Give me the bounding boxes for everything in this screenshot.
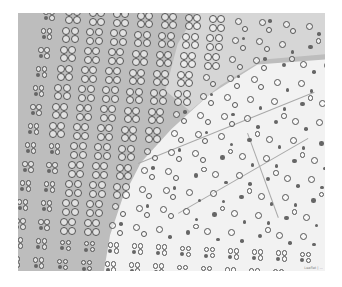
marker-icon[interactable] [84,56,92,64]
marker-icon[interactable] [87,94,95,102]
marker-icon[interactable] [174,90,182,98]
marker-icon[interactable] [92,56,100,64]
marker-icon[interactable] [169,21,177,29]
marker-icon[interactable] [86,28,94,36]
marker-icon[interactable] [212,53,220,61]
marker-icon[interactable] [44,47,50,53]
marker-icon[interactable] [144,212,150,218]
marker-icon[interactable] [153,127,161,135]
marker-dot-icon[interactable] [300,102,305,107]
marker-icon[interactable] [259,19,266,26]
marker-dot-icon[interactable] [151,166,155,170]
marker-icon[interactable] [90,241,96,247]
marker-dot-icon[interactable] [310,89,314,93]
marker-icon[interactable] [98,181,106,189]
marker-icon[interactable] [186,189,193,196]
marker-icon[interactable] [133,224,140,231]
marker-icon[interactable] [46,162,52,168]
marker-icon[interactable] [181,118,187,124]
marker-icon[interactable] [120,211,126,217]
marker-icon[interactable] [188,60,196,68]
marker-dot-icon[interactable] [183,110,187,114]
marker-icon[interactable] [95,37,103,45]
marker-icon[interactable] [289,56,295,62]
marker-icon[interactable] [119,29,127,37]
marker-icon[interactable] [148,116,156,124]
marker-icon[interactable] [124,115,132,123]
marker-dot-icon[interactable] [278,145,282,149]
marker-icon[interactable] [60,54,68,62]
marker-icon[interactable] [210,190,217,197]
marker-icon[interactable] [121,13,129,18]
marker-icon[interactable] [116,57,124,65]
marker-icon[interactable] [36,110,42,116]
marker-icon[interactable] [164,59,172,67]
marker-icon[interactable] [47,206,53,212]
marker-icon[interactable] [167,40,175,48]
marker-icon[interactable] [206,34,214,42]
marker-icon[interactable] [232,37,239,44]
marker-dot-icon[interactable] [130,269,134,271]
marker-dot-icon[interactable] [251,163,255,167]
marker-icon[interactable] [79,142,87,150]
marker-dot-icon[interactable] [283,107,287,111]
marker-icon[interactable] [200,93,207,100]
marker-dot-icon[interactable] [28,130,32,134]
marker-icon[interactable] [256,38,263,45]
marker-icon[interactable] [100,162,108,170]
marker-icon[interactable] [162,250,168,256]
marker-dot-icon[interactable] [132,250,136,254]
marker-icon[interactable] [102,95,110,103]
marker-icon[interactable] [135,268,141,271]
marker-icon[interactable] [68,170,76,178]
marker-dot-icon[interactable] [267,221,271,225]
marker-icon[interactable] [126,96,134,104]
marker-icon[interactable] [316,38,322,44]
marker-icon[interactable] [273,170,279,176]
marker-icon[interactable] [290,28,296,34]
marker-icon[interactable] [68,161,76,169]
marker-icon[interactable] [34,123,40,129]
marker-icon[interactable] [300,233,307,240]
marker-icon[interactable] [279,269,285,271]
marker-icon[interactable] [108,57,116,65]
marker-icon[interactable] [76,113,84,121]
marker-icon[interactable] [193,224,199,230]
marker-icon[interactable] [284,175,291,182]
marker-icon[interactable] [39,263,45,269]
marker-icon[interactable] [212,171,219,178]
marker-dot-icon[interactable] [222,200,226,204]
marker-icon[interactable] [89,18,97,26]
marker-dot-icon[interactable] [284,216,289,221]
marker-icon[interactable] [251,76,258,83]
marker-dot-icon[interactable] [263,57,267,61]
marker-dot-icon[interactable] [294,203,298,207]
marker-dot-icon[interactable] [20,187,24,191]
marker-dot-icon[interactable] [154,270,158,271]
marker-icon[interactable] [81,260,87,266]
marker-icon[interactable] [92,171,100,179]
marker-icon[interactable] [114,242,120,248]
marker-icon[interactable] [210,81,216,87]
marker-icon[interactable] [52,111,60,119]
marker-icon[interactable] [183,265,189,271]
marker-icon[interactable] [42,66,48,72]
marker-icon[interactable] [121,134,129,142]
marker-icon[interactable] [163,187,170,194]
marker-icon[interactable] [36,104,42,110]
marker-icon[interactable] [158,32,166,40]
marker-icon[interactable] [108,105,116,113]
marker-icon[interactable] [201,266,207,271]
marker-icon[interactable] [44,219,50,225]
marker-icon[interactable] [111,267,117,271]
marker-dot-icon[interactable] [270,202,274,206]
marker-icon[interactable] [49,122,57,130]
marker-dot-icon[interactable] [119,222,123,226]
marker-icon[interactable] [70,142,78,150]
marker-icon[interactable] [145,20,153,28]
marker-icon[interactable] [132,107,140,115]
marker-icon[interactable] [55,149,61,155]
marker-icon[interactable] [57,259,63,265]
marker-icon[interactable] [144,148,151,155]
marker-icon[interactable] [81,75,89,83]
